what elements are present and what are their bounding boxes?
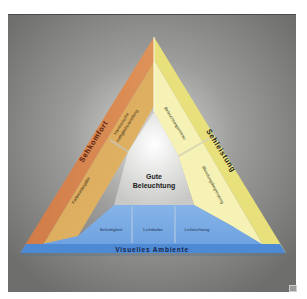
lighting-quality-diagram: Sehkomfort Harmonische Helligkeitsvertei… [0, 0, 307, 299]
bottom-item-schattigkeit: Schattigkeit [100, 227, 123, 232]
center-label-line1: Gute [146, 173, 162, 180]
center-label-line2: Beleuchtung [133, 182, 175, 190]
bottom-item-lichtrichtung: Lichtrichtung [185, 227, 210, 232]
bottom-item-lichtfarbe: Lichtfarbe [143, 227, 163, 232]
bottom-side-title: Visuelles Ambiente [115, 246, 189, 253]
expand-icon[interactable] [289, 285, 297, 292]
